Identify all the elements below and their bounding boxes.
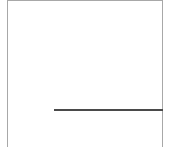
top-border-line (7, 0, 163, 1)
diagram-canvas (0, 0, 177, 147)
left-border-line (7, 0, 8, 147)
right-border-line (162, 0, 163, 147)
horizontal-divider-line (54, 109, 163, 111)
